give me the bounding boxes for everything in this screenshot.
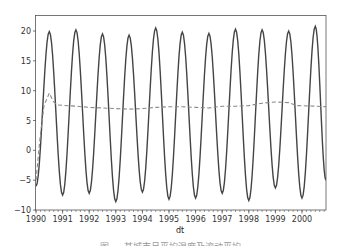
x-tick-label: 1991 [52,215,72,224]
x-tick-label: 1997 [212,215,232,224]
x-tick-label: 1995 [159,215,179,224]
x-tick-label: 2000 [292,215,312,224]
line-chart: −10−505101520 19901991199219931994199519… [0,0,341,246]
y-tick-label: −10 [14,206,31,215]
y-tick-label: 10 [21,87,31,96]
series-line-0 [36,26,326,201]
x-axis: 1990199119921993199419951996199719981999… [26,210,324,224]
x-tick-label: 1990 [26,215,46,224]
x-tick-label: 1994 [132,215,152,224]
y-tick-label: 15 [21,57,31,66]
plot-lines [36,26,326,201]
y-tick-label: 0 [26,146,31,155]
x-tick-label: 1992 [79,215,99,224]
y-tick-label: 5 [26,117,31,126]
x-tick-label: 1993 [106,215,126,224]
y-tick-label: 20 [21,27,31,36]
y-tick-label: −5 [19,176,31,185]
x-tick-label: 1999 [265,215,285,224]
y-axis: −10−505101520 [14,27,36,215]
x-tick-label: 1996 [185,215,205,224]
x-tick-label: 1998 [239,215,259,224]
figure-caption: 图 ... 某城市月平均温度及滚动平均 [0,238,341,246]
x-axis-label: dt [176,226,184,235]
